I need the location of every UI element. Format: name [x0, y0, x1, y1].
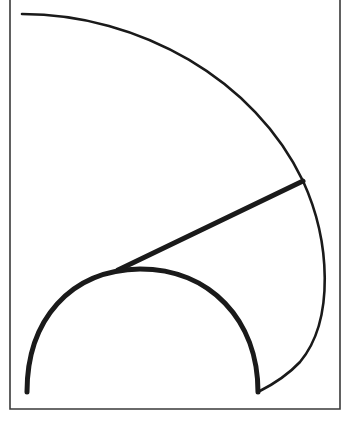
geometry-diagram — [0, 0, 350, 427]
inner-arc — [27, 269, 258, 392]
outer-arc — [22, 14, 325, 392]
frame-border — [10, 0, 340, 409]
tangent-line — [118, 181, 303, 270]
